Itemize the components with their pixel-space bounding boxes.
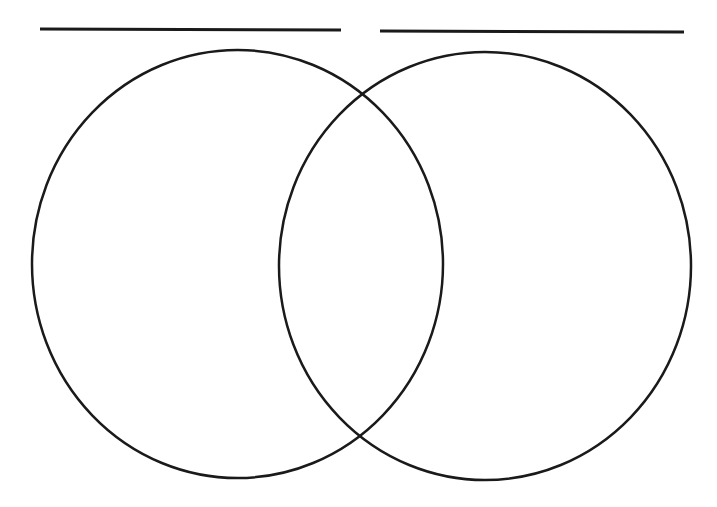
left-only-region[interactable] [60, 150, 260, 380]
overlap-region[interactable] [300, 150, 420, 380]
right-only-region[interactable] [460, 150, 660, 380]
right-set-title-line[interactable] [380, 31, 684, 32]
left-set-title-line[interactable] [40, 29, 341, 30]
venn-diagram [0, 0, 717, 507]
